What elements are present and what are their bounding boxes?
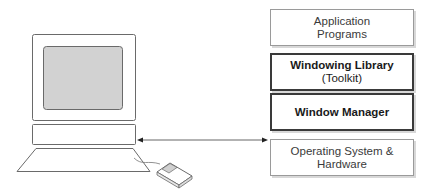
keyboard bbox=[17, 149, 150, 172]
layer-operating-system: Operating System & Hardware bbox=[270, 139, 414, 176]
layer-label-line1: Operating System & bbox=[291, 145, 394, 158]
layer-label-line1: Windowing Library bbox=[290, 59, 393, 72]
layer-label-line1: Application bbox=[314, 15, 370, 28]
layer-label-line2: Programs bbox=[317, 28, 367, 41]
system-unit bbox=[33, 125, 136, 145]
layer-windowing-library: Windowing Library (Toolkit) bbox=[270, 53, 414, 91]
mouse-icon bbox=[157, 163, 192, 188]
layer-label-line2: Hardware bbox=[317, 158, 367, 171]
layer-application-programs: Application Programs bbox=[270, 9, 414, 46]
layer-window-manager: Window Manager bbox=[270, 93, 414, 131]
layer-label-line1: Window Manager bbox=[295, 106, 389, 119]
connector-arrow bbox=[137, 138, 268, 143]
layer-label-line2: (Toolkit) bbox=[322, 72, 362, 85]
screen bbox=[44, 47, 123, 110]
